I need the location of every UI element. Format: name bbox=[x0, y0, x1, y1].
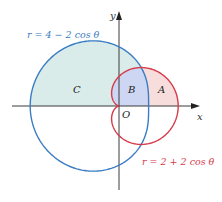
polar-diagram: y x O C B A r = 4 − 2 cos θ r = 2 + 2 co… bbox=[0, 0, 222, 202]
region-b-label: B bbox=[127, 84, 135, 95]
red-equation-label: r = 2 + 2 cos θ bbox=[142, 156, 215, 167]
origin-label: O bbox=[122, 109, 130, 120]
region-c-label: C bbox=[73, 84, 81, 95]
y-axis-arrow-icon bbox=[116, 11, 122, 20]
y-axis-label: y bbox=[109, 10, 116, 21]
x-axis-arrow-icon bbox=[191, 103, 200, 109]
x-axis-label: x bbox=[197, 111, 203, 122]
region-a-label: A bbox=[157, 84, 165, 95]
blue-equation-label: r = 4 − 2 cos θ bbox=[27, 29, 100, 40]
